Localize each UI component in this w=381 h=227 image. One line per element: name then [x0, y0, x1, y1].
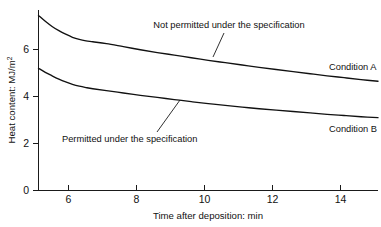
- y-tick-label-6: 6: [23, 43, 29, 55]
- y-axis-title-superscript: 2: [6, 56, 13, 60]
- annotation-permitted: Permitted under the specification: [62, 134, 197, 144]
- x-axis-ticks: [69, 185, 341, 191]
- y-tick-label-4: 4: [23, 90, 29, 102]
- leader-line-not-permitted: [213, 33, 224, 57]
- x-axis-title: Time after deposition: min: [153, 210, 263, 221]
- y-axis-title-base: Heat content: MJ/m: [6, 60, 17, 143]
- y-tick-label-2: 2: [23, 137, 29, 149]
- annotation-not-permitted: Not permitted under the specification: [153, 20, 304, 30]
- chart-axes: [39, 10, 379, 191]
- annotation-leader-lines: [157, 33, 224, 132]
- leader-line-permitted: [157, 100, 180, 132]
- data-series-group: [39, 15, 379, 117]
- y-tick-label-0: 0: [23, 184, 29, 196]
- series-label-condition-b: Condition B: [329, 124, 377, 134]
- x-tick-label-6: 6: [66, 193, 72, 205]
- chart-canvas: 6 4 2 0 6 8 10 12 14 Time after depositi…: [0, 0, 381, 227]
- y-axis-ticks: [33, 50, 39, 191]
- y-axis-title: Heat content: MJ/m2: [6, 56, 17, 143]
- x-tick-label-8: 8: [134, 193, 140, 205]
- x-tick-label-12: 12: [267, 193, 279, 205]
- chart-figure: 6 4 2 0 6 8 10 12 14 Time after depositi…: [0, 0, 381, 227]
- y-axis-tick-labels: 6 4 2 0: [23, 43, 29, 196]
- x-tick-label-10: 10: [199, 193, 211, 205]
- svg-text:Heat content: MJ/m2: Heat content: MJ/m2: [6, 56, 17, 143]
- x-axis-tick-labels: 6 8 10 12 14: [66, 193, 347, 205]
- x-tick-label-14: 14: [335, 193, 347, 205]
- series-label-condition-a: Condition A: [329, 62, 377, 72]
